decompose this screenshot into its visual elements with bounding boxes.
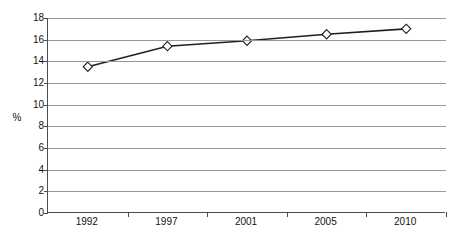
y-axis-tick-labels: 181614121086420 <box>20 0 44 245</box>
y-tick-mark <box>44 213 48 214</box>
y-tick-mark <box>44 170 48 171</box>
y-tick-label: 12 <box>22 78 44 88</box>
y-tick-mark <box>44 40 48 41</box>
y-tick-label: 18 <box>22 13 44 23</box>
y-tick-mark <box>44 191 48 192</box>
gridline <box>48 170 446 171</box>
y-tick-mark <box>44 105 48 106</box>
y-tick-label: 10 <box>22 100 44 110</box>
x-tick-label: 2010 <box>394 216 416 228</box>
y-tick-label: 2 <box>22 186 44 196</box>
y-tick-mark <box>44 83 48 84</box>
y-tick-label: 16 <box>22 35 44 45</box>
data-point-marker <box>402 24 411 33</box>
y-tick-label: 0 <box>22 208 44 218</box>
x-tick-label: 1997 <box>155 216 177 228</box>
y-tick-mark <box>44 126 48 127</box>
gridline <box>48 148 446 149</box>
line-chart: % 181614121086420 19921997200120052010 <box>0 0 454 245</box>
y-tick-label: 6 <box>22 143 44 153</box>
data-point-marker <box>163 42 172 51</box>
series-graphics <box>48 18 446 213</box>
gridline <box>48 105 446 106</box>
y-tick-mark <box>44 18 48 19</box>
y-tick-label: 4 <box>22 165 44 175</box>
plot-area <box>47 18 445 213</box>
gridline <box>48 18 446 19</box>
gridline <box>48 126 446 127</box>
x-tick-label: 2005 <box>314 216 336 228</box>
y-tick-label: 14 <box>22 56 44 66</box>
y-tick-label: 8 <box>22 121 44 131</box>
gridline <box>48 191 446 192</box>
x-axis-tick-labels: 19921997200120052010 <box>47 216 445 234</box>
data-point-marker <box>83 62 92 71</box>
gridline <box>48 40 446 41</box>
data-point-marker <box>242 36 251 45</box>
x-tick-mark <box>446 212 447 217</box>
y-tick-mark <box>44 61 48 62</box>
data-point-marker <box>322 30 331 39</box>
y-tick-mark <box>44 148 48 149</box>
x-tick-label: 1992 <box>76 216 98 228</box>
x-tick-label: 2001 <box>235 216 257 228</box>
gridline <box>48 83 446 84</box>
gridline <box>48 61 446 62</box>
